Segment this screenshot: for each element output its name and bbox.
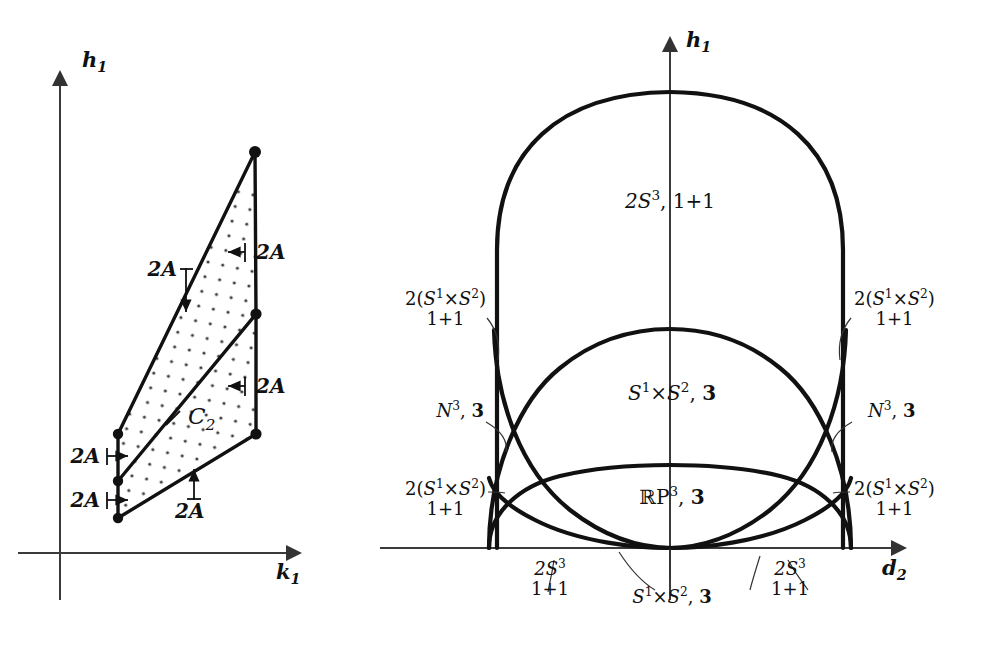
callout-bottom-right: 2S3 1+1: [771, 558, 809, 599]
callout-left-mid: N3, 3: [436, 400, 484, 421]
region-label-top: 2S3, 1+1: [625, 188, 715, 212]
right-panel-graphics: [0, 0, 997, 645]
callout-right-top: 2(S1×S2) 1+1: [854, 288, 935, 329]
callout-left-bottom: 2(S1×S2) 1+1: [405, 478, 486, 519]
curve-cross-left-to-right: [494, 330, 851, 548]
right-axis-label-h1: h1: [686, 28, 711, 55]
callout-left-top: 2(S1×S2) 1+1: [405, 288, 486, 329]
region-label-bottom: ℝP3, 3: [639, 484, 704, 508]
figure-canvas: h1 k1 2A 2A 2A 2A 2A 2A C2: [0, 0, 997, 645]
region-label-middle: S1×S2, 3: [628, 380, 716, 404]
callout-right-bottom: 2(S1×S2) 1+1: [854, 478, 935, 519]
curve-cross-right-to-left: [489, 330, 846, 548]
right-axis-label-d2: d2: [882, 556, 907, 583]
callout-right-mid: N3, 3: [868, 400, 916, 421]
callout-bottom-center: S1×S2, 3: [632, 586, 711, 607]
callout-bottom-left: 2S3 1+1: [531, 558, 569, 599]
